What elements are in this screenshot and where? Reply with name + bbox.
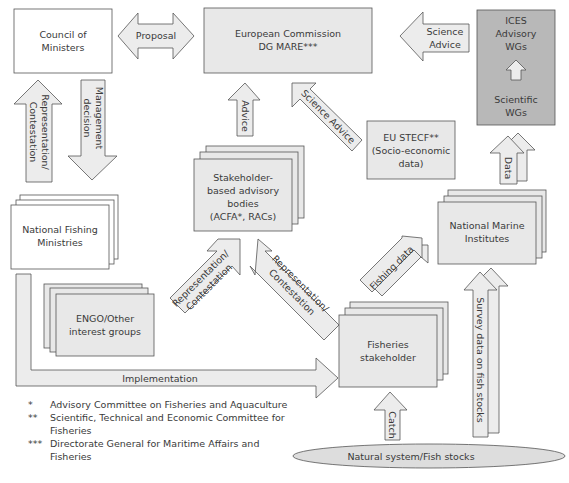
proposal-label: Proposal [136,30,176,41]
legend-item: *** Directorate General for Maritime Aff… [28,437,288,463]
catch-label: Catch [387,411,398,438]
council-box [14,9,112,73]
advice-label: Advice [240,100,251,132]
science-advice-stecf-label: Science Advice [299,87,357,145]
fisheries-stakeholder-box [339,315,437,387]
legend-item: ** Scientific, Technical and Economic Co… [28,411,288,437]
implementation-label: Implementation [122,373,197,384]
survey-data-label: Survey data on fish stocks [475,297,486,423]
natural-system-label: Natural system/Fish stocks [347,451,474,462]
representation-left-label: Representation/Contestation [28,94,51,170]
footnote-legend: * Advisory Committee on Fisheries and Aq… [28,398,288,463]
legend-item: * Advisory Committee on Fisheries and Aq… [28,398,288,411]
data-label: Data [503,157,514,180]
engo-box [56,294,154,356]
